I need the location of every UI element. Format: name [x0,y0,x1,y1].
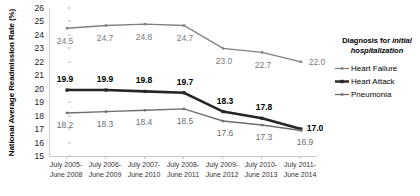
data-point-label: 23.0 [216,57,233,66]
legend-title: Diagnosis for initial hospitalization [334,36,420,56]
data-point-marker [221,110,224,113]
data-point-marker [222,47,224,49]
legend-item-label: Heart Failure [351,64,397,73]
data-point-label: 17.8 [256,103,273,112]
data-point-marker [144,109,146,111]
data-point-marker [260,117,263,120]
data-point-label: 18.3 [217,96,234,105]
legend-item-pneumonia[interactable]: Pneumonia [334,88,420,101]
data-point-marker [104,88,107,91]
data-point-marker [300,129,302,131]
data-point-label: 19.9 [57,75,74,84]
x-axis-tick-mark [66,156,67,159]
x-axis-tick-label: July 2011-June 2014 [276,160,324,179]
legend-item-heart-attack[interactable]: Heart Attack [334,75,420,88]
x-axis-label-line2: June 2014 [276,170,324,180]
data-point-marker [66,27,68,29]
x-axis-tick-mark [105,156,106,159]
x-axis-tick-mark [222,156,223,159]
x-axis-tick-mark [300,156,301,159]
data-point-label: 24.5 [57,37,74,46]
data-point-marker [261,51,263,53]
data-point-label: 24.8 [136,33,153,42]
data-point-marker [300,61,302,63]
x-axis-labels: July 2005-June 2008July 2006-June 2009Ju… [49,160,317,188]
data-point-label: 17.3 [256,133,273,142]
y-axis-tick-label: 17 [22,125,44,134]
data-point-label: 19.9 [97,75,114,84]
data-point-marker [222,120,224,122]
line-chart: National Average Readmission Rate (%) 15… [0,0,420,196]
legend-marker-icon [334,77,350,86]
data-point-label: 18.2 [57,121,74,130]
y-axis-tick-label: 15 [22,152,44,161]
data-point-marker [143,90,146,93]
legend-item-list: Heart FailureHeart AttackPneumonia [334,62,420,101]
legend-item-label: Heart Attack [351,77,395,86]
y-axis-tick-label: 21 [22,71,44,80]
data-point-marker [65,88,68,91]
y-axis-tick-label: 26 [22,4,44,13]
data-point-label: 24.7 [177,34,194,43]
y-axis-tick-label: 16 [22,138,44,147]
y-axis-ticks: 151617181920212223242526 [22,8,44,156]
legend-marker-icon [334,64,350,73]
data-point-label: 18.5 [177,117,194,126]
legend-title-prefix: Diagnosis for [342,36,392,45]
data-point-label: 18.4 [136,118,153,127]
legend-title-suffix: hospitalization [351,46,404,55]
y-axis-tick-label: 25 [22,17,44,26]
data-point-marker [105,110,107,112]
y-axis-tick-label: 23 [22,44,44,53]
y-axis-tick-label: 20 [22,84,44,93]
data-point-label: 19.7 [177,78,194,87]
data-point-label: 17.6 [217,129,234,138]
data-point-label: 24.7 [97,34,114,43]
data-point-label: 22.7 [255,61,272,70]
y-axis-tick-label: 24 [22,31,44,40]
legend-item-label: Pneumonia [351,90,391,99]
legend-marker-icon [334,90,350,99]
y-axis-title: National Average Readmission Rate (%) [7,8,16,158]
data-point-marker [183,24,185,26]
data-point-label: 17.0 [307,124,324,133]
x-axis-tick-mark [261,156,262,159]
data-point-label: 19.8 [136,76,153,85]
legend-title-emphasis: initial [392,36,412,45]
y-axis-tick-label: 19 [22,98,44,107]
data-point-label: 18.3 [97,119,114,128]
x-axis-label-line1: July 2011- [276,160,324,170]
legend-item-heart-failure[interactable]: Heart Failure [334,62,420,75]
data-point-marker [66,112,68,114]
data-point-label: 16.9 [297,138,314,147]
data-point-marker [105,24,107,26]
data-point-label: 22.0 [309,58,326,67]
y-axis-tick-label: 22 [22,58,44,67]
data-point-marker [261,124,263,126]
y-axis-tick-label: 18 [22,111,44,120]
data-point-marker [182,91,185,94]
x-axis-tick-mark [144,156,145,159]
data-point-marker [144,23,146,25]
x-axis-tick-mark [183,156,184,159]
chart-legend: Diagnosis for initial hospitalization He… [334,36,420,101]
data-point-marker [183,108,185,110]
